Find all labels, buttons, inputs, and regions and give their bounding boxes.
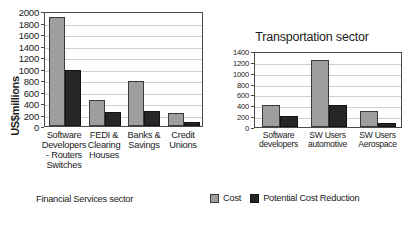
y-axis-tickmark — [41, 35, 44, 36]
x-axis-label-transportation-2: SW Users Aerospace — [349, 131, 406, 150]
legend-label-potential-cost-reduction: Potential Cost Reduction — [263, 193, 359, 203]
chart-title-transportation: Transportation sector — [212, 30, 412, 44]
y-axis-tickmark — [41, 116, 44, 117]
bar-transportation-0-0 — [262, 105, 280, 127]
legend-swatch-cost-icon — [210, 194, 219, 203]
bar-transportation-1-0 — [311, 60, 329, 127]
y-axis-tick-transportation: 200 — [212, 113, 249, 122]
figure-canvas: US$millions Financial Services sector 20… — [0, 0, 412, 226]
gridline — [45, 25, 202, 26]
y-axis-tick-financial-services: 1000 — [0, 65, 39, 76]
y-axis-tick-transportation: 1400 — [212, 48, 249, 57]
y-axis-tickmark — [41, 81, 44, 82]
y-axis-tickmark — [251, 63, 254, 64]
legend-item-potential-cost-reduction: Potential Cost Reduction — [250, 193, 359, 203]
y-axis-tick-financial-services: 1600 — [0, 30, 39, 41]
bar-transportation-2-1 — [378, 123, 396, 127]
y-axis-tick-transportation: 600 — [212, 91, 249, 100]
gridline — [45, 59, 202, 60]
bar-financial-services-2-1 — [144, 111, 160, 126]
y-axis-tickmark — [41, 12, 44, 13]
legend-label-cost: Cost — [223, 193, 241, 203]
y-axis-tickmark — [41, 58, 44, 59]
y-axis-tickmark — [251, 117, 254, 118]
bar-transportation-0-1 — [280, 116, 298, 127]
y-axis-tick-financial-services: 0 — [0, 122, 39, 133]
bar-transportation-2-0 — [360, 111, 378, 127]
gridline — [45, 48, 202, 49]
y-axis-tickmark — [41, 127, 44, 128]
y-axis-tickmark — [41, 104, 44, 105]
transportation-chart: Transportation sector 140012001000800600… — [212, 30, 412, 180]
bar-financial-services-3-0 — [168, 113, 184, 126]
bar-financial-services-1-1 — [105, 112, 121, 126]
y-axis-tick-financial-services: 2000 — [0, 7, 39, 18]
y-axis-tickmark — [41, 47, 44, 48]
y-axis-tick-financial-services: 1800 — [0, 19, 39, 30]
y-axis-tickmark — [251, 95, 254, 96]
y-axis-tick-financial-services: 400 — [0, 99, 39, 110]
bar-financial-services-2-0 — [128, 81, 144, 126]
y-axis-tickmark — [251, 74, 254, 75]
legend-swatch-reduction-icon — [250, 194, 259, 203]
legend-item-cost: Cost — [210, 193, 241, 203]
y-axis-tick-financial-services: 200 — [0, 111, 39, 122]
bar-financial-services-3-1 — [184, 122, 200, 126]
financial-services-chart: US$millions Financial Services sector 20… — [0, 4, 210, 204]
gridline — [45, 36, 202, 37]
bar-transportation-1-1 — [329, 105, 347, 127]
y-axis-tick-transportation: 1000 — [212, 70, 249, 79]
x-axis-label-transportation-1: SW Users automotive — [299, 131, 356, 150]
y-axis-tickmark — [251, 106, 254, 107]
y-axis-tick-financial-services: 1400 — [0, 42, 39, 53]
y-axis-tick-transportation: 0 — [212, 124, 249, 133]
bar-financial-services-1-0 — [89, 100, 105, 126]
y-axis-tickmark — [41, 70, 44, 71]
y-axis-tickmark — [251, 52, 254, 53]
y-axis-tick-transportation: 800 — [212, 81, 249, 90]
x-axis-label-financial: Financial Services sector — [36, 194, 133, 204]
bar-financial-services-0-1 — [65, 70, 81, 126]
plot-area-transportation — [254, 52, 402, 128]
y-axis-tickmark — [41, 24, 44, 25]
x-axis-label-financial-services-3: Credit Unions — [159, 130, 207, 150]
plot-area-financial — [44, 12, 203, 127]
y-axis-tick-financial-services: 800 — [0, 76, 39, 87]
y-axis-tick-transportation: 1200 — [212, 59, 249, 68]
y-axis-tickmark — [41, 93, 44, 94]
y-axis-tick-financial-services: 1200 — [0, 53, 39, 64]
y-axis-tick-transportation: 400 — [212, 102, 249, 111]
y-axis-tickmark — [251, 128, 254, 129]
bar-financial-services-0-0 — [49, 17, 65, 126]
y-axis-tickmark — [251, 85, 254, 86]
chart-legend: Cost Potential Cost Reduction — [210, 193, 359, 203]
y-axis-tick-financial-services: 600 — [0, 88, 39, 99]
